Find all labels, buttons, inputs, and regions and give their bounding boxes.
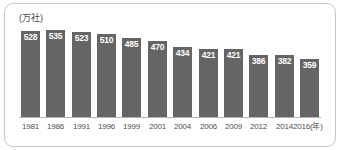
bar: 382 (275, 55, 294, 118)
bar-column: 510 (97, 26, 116, 118)
bar: 523 (72, 32, 91, 118)
bar-column: 382 (275, 26, 294, 118)
x-axis-tick-label: 2012 (249, 121, 268, 132)
bar: 528 (21, 31, 40, 118)
bar-value-label: 421 (199, 51, 218, 60)
y-axis-unit-label: (万社) (19, 13, 43, 24)
bar-value-label: 535 (46, 32, 65, 41)
bar-value-label: 434 (173, 49, 192, 58)
x-axis-tick-label: 2004 (173, 121, 192, 132)
bar-value-label: 421 (224, 51, 243, 60)
bar-value-label: 485 (122, 40, 141, 49)
bar: 510 (97, 34, 116, 118)
bar-column: 421 (224, 26, 243, 118)
bar-column: 386 (249, 26, 268, 118)
bar-column: 470 (148, 26, 167, 118)
x-axis-tick-label: 2006 (199, 121, 218, 132)
bar-value-label: 382 (275, 57, 294, 66)
x-axis-line (19, 117, 321, 118)
x-axis-tick-label: 1996 (97, 121, 116, 132)
bar-value-label: 359 (300, 61, 319, 70)
x-axis-tick-label: 2014 (275, 121, 294, 132)
bar-value-label: 386 (249, 57, 268, 66)
x-axis-labels: 1981198619911996199920012004200620092012… (21, 121, 319, 135)
bar-column: 528 (21, 26, 40, 118)
bar: 434 (173, 47, 192, 118)
bar-value-label: 510 (97, 36, 116, 45)
plot-area: 528535523510485470434421421386382359 (21, 26, 319, 118)
bar-column: 434 (173, 26, 192, 118)
x-axis-tick-label: 1991 (72, 121, 91, 132)
x-axis-tick-label: 2009 (224, 121, 243, 132)
bar: 470 (148, 41, 167, 118)
bar: 485 (122, 38, 141, 118)
chart-container: (万社) 52853552351048547043442142138638235… (0, 0, 337, 150)
bar-column: 359 (300, 26, 319, 118)
x-axis-tick-label: 1999 (122, 121, 141, 132)
bar-column: 421 (199, 26, 218, 118)
bar-column: 485 (122, 26, 141, 118)
bar-value-label: 523 (72, 34, 91, 43)
bar: 386 (249, 55, 268, 118)
x-axis-tick-label: 2016(年) (293, 121, 323, 132)
x-axis-tick-label: 1986 (46, 121, 65, 132)
bar-value-label: 528 (21, 33, 40, 42)
bar-value-label: 470 (148, 43, 167, 52)
x-axis-tick-label: 1981 (21, 121, 40, 132)
bar-column: 523 (72, 26, 91, 118)
bar-column: 535 (46, 26, 65, 118)
x-axis-tick-label: 2001 (148, 121, 167, 132)
bar: 421 (199, 49, 218, 118)
bar: 359 (300, 59, 319, 118)
bar: 535 (46, 30, 65, 118)
bar: 421 (224, 49, 243, 118)
